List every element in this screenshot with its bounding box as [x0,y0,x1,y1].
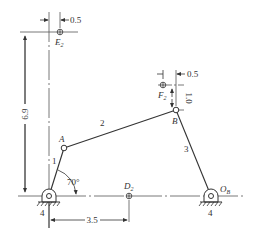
dimension-label-3-5: 3.5 [86,215,98,225]
point-label-e2: E2 [54,37,64,48]
joint-label-a: A [58,134,65,144]
dimension-label-f2-height: 1.0 [184,92,194,104]
dimension-label-6-9: 6.9 [20,108,30,120]
link-label-2: 2 [100,118,105,128]
point-e2-marker [57,29,63,35]
link-3 [176,110,211,196]
joint-label-ob: OB [220,184,231,195]
ground-pivot-left [37,189,60,206]
link-label-3: 3 [184,144,189,154]
ground-pivot-right [199,189,222,206]
joint-b [173,107,179,113]
dimension-label-f2-offset: 0.5 [187,69,199,79]
linkage-diagram: 6.9 0.5 0.5 1.0 3.5 70° 1 2 3 [0,0,254,237]
angle-label: 70° [67,177,80,187]
joint-label-b: B [172,116,178,126]
dimension-f2-offset [157,70,185,79]
point-label-d2: D2 [123,181,134,192]
ground-label-right: 4 [208,208,213,218]
ground-label-left: 4 [40,208,45,218]
dimension-6-9: 6.9 [20,36,30,192]
link-label-1: 1 [52,156,57,166]
dimension-label-e2-offset: 0.5 [70,15,82,25]
joint-a [61,145,67,151]
point-label-f2: F2 [157,90,167,101]
point-d2-marker [126,193,132,199]
point-f2-marker [160,82,166,88]
link-2 [64,110,176,148]
